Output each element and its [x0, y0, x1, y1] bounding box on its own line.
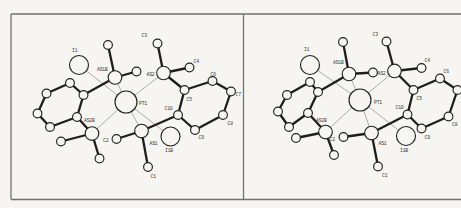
left-atom-C8	[219, 111, 228, 120]
right-atom-C4	[417, 64, 426, 73]
right-atom-C3	[382, 37, 391, 46]
stereo-ortep-figure: I1PT1I1BAS1BAS2AS2BAS1C1C2C3C4C5C6C7C8C9…	[0, 0, 461, 208]
right-atom-C9	[417, 124, 426, 133]
left-atom-R3	[42, 89, 51, 98]
right-atom-I1B	[397, 127, 416, 146]
right-atom-R4	[274, 107, 283, 116]
left-atom-C4	[185, 63, 194, 72]
right-atom-label-AS2B: AS2B	[316, 118, 327, 123]
left-atom-I1	[70, 56, 89, 75]
left-atom-label-C5: C5	[187, 97, 193, 102]
left-atom-C7	[227, 87, 236, 96]
right-atom-PT1	[349, 89, 371, 111]
left-atom-AS2	[157, 66, 171, 80]
right-atom-C1	[374, 162, 383, 171]
left-atom-label-PT1: PT1	[139, 101, 147, 106]
right-atom-AS1	[365, 126, 379, 140]
right-atom-R3	[283, 91, 292, 100]
right-atom-M3	[292, 134, 301, 143]
right-atom-label-AS1: AS1	[379, 141, 387, 146]
left-atom-label-AS2B: AS2B	[84, 118, 95, 123]
left-atom-R6	[73, 113, 82, 122]
left-atom-label-C2: C2	[103, 138, 109, 143]
left-atom-label-AS2: AS2	[147, 72, 155, 77]
right-atom-label-C1: C1	[382, 173, 388, 178]
left-atom-C5	[180, 86, 189, 95]
left-atom-M2	[132, 67, 141, 76]
left-atom-label-C6: C6	[211, 72, 217, 77]
right-atom-C6	[436, 74, 445, 83]
right-atom-label-C10: C10	[396, 105, 404, 110]
left-atom-C10	[174, 111, 183, 120]
right-atom-I1	[301, 56, 320, 75]
scanned-figure-page: I1PT1I1BAS1BAS2AS2BAS1C1C2C3C4C5C6C7C8C9…	[0, 0, 461, 208]
right-atom-label-PT1: PT1	[374, 100, 382, 105]
left-atom-label-C8: C8	[228, 121, 234, 126]
left-atom-label-C4: C4	[194, 59, 200, 64]
left-atom-label-I1B: I1B	[165, 148, 173, 153]
left-atom-C1	[144, 163, 153, 172]
right-atom-R2	[306, 78, 315, 87]
right-atom-label-AS1B: AS1B	[333, 60, 344, 65]
right-atom-C8	[444, 112, 453, 121]
right-atom-label-C5: C5	[417, 96, 423, 101]
right-atom-label-I1B: I1B	[400, 148, 408, 153]
right-atom-label-C8: C8	[452, 122, 458, 127]
left-atom-label-C7: C7	[236, 92, 242, 97]
right-atom-M4	[330, 151, 339, 160]
left-atom-PT1	[115, 91, 137, 113]
right-atom-label-C3: C3	[373, 32, 379, 37]
left-atom-label-C9: C9	[199, 135, 205, 140]
right-atom-M1	[339, 38, 348, 47]
left-atom-I1B	[161, 127, 180, 146]
right-atom-C10	[403, 110, 412, 119]
right-atom-R1	[314, 88, 323, 97]
right-atom-C2	[339, 133, 348, 142]
right-atom-R6	[304, 109, 313, 118]
left-atom-M1	[104, 41, 113, 50]
right-atom-label-I1: I1	[304, 47, 310, 52]
left-atom-AS2B	[85, 127, 99, 141]
right-atom-AS2	[388, 64, 402, 78]
left-atom-M3	[57, 137, 66, 146]
left-atom-label-AS1B: AS1B	[97, 67, 108, 72]
left-atom-AS1B	[108, 71, 122, 85]
right-atom-M2	[369, 68, 378, 77]
right-atom-AS1B	[342, 67, 356, 81]
right-atom-label-C4: C4	[425, 58, 431, 63]
right-atom-R5	[285, 123, 294, 132]
left-atom-label-C1: C1	[151, 174, 157, 179]
left-atom-M4	[95, 154, 104, 163]
paper-background	[0, 0, 461, 208]
left-atom-R4	[33, 109, 42, 118]
left-atom-label-AS1: AS1	[150, 141, 158, 146]
right-atom-label-C2: C2	[330, 137, 336, 142]
right-atom-label-C6: C6	[444, 69, 450, 74]
right-atom-label-C9: C9	[425, 135, 431, 140]
right-atom-C5	[409, 86, 418, 95]
left-atom-C3	[153, 39, 162, 48]
left-atom-label-C10: C10	[165, 106, 173, 111]
left-atom-label-I1: I1	[72, 48, 78, 53]
left-atom-C2	[112, 135, 121, 144]
left-atom-AS1	[135, 124, 149, 138]
left-atom-label-C3: C3	[142, 33, 148, 38]
right-atom-label-AS2: AS2	[378, 71, 386, 76]
left-atom-R2	[66, 79, 75, 88]
left-atom-C6	[208, 77, 217, 86]
left-atom-C9	[191, 126, 200, 135]
right-atom-C7	[453, 86, 461, 95]
left-atom-R1	[79, 91, 88, 100]
left-atom-R5	[46, 123, 55, 132]
